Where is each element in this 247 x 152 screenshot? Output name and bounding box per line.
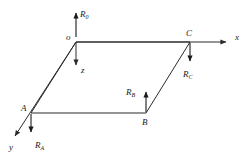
x-axis-label: x	[234, 32, 239, 42]
free-body-diagram: o C B A x y z R0 RC RB RA	[0, 0, 247, 152]
point-label-B: B	[142, 117, 148, 127]
reaction-at-A-label-subscript: A	[40, 145, 45, 151]
point-label-A: A	[20, 103, 27, 113]
plate-outline	[31, 42, 190, 113]
reaction-at-A-label: RA	[34, 140, 45, 151]
reaction-at-B-label: RB	[125, 87, 136, 98]
reaction-at-B-label-subscript: B	[132, 92, 136, 98]
figure-canvas: o C B A x y z R0 RC RB RA	[0, 0, 247, 152]
point-label-o: o	[66, 32, 71, 42]
y-axis-label: y	[8, 142, 13, 152]
reaction-at-o-label-subscript: 0	[86, 14, 89, 20]
point-label-C: C	[186, 28, 193, 38]
z-axis-label: z	[80, 65, 85, 75]
reaction-at-C-label: RC	[182, 69, 194, 80]
reaction-at-C-label-subscript: C	[189, 74, 194, 80]
reaction-at-o-label: R0	[79, 9, 89, 20]
y-axis-line	[15, 42, 76, 136]
